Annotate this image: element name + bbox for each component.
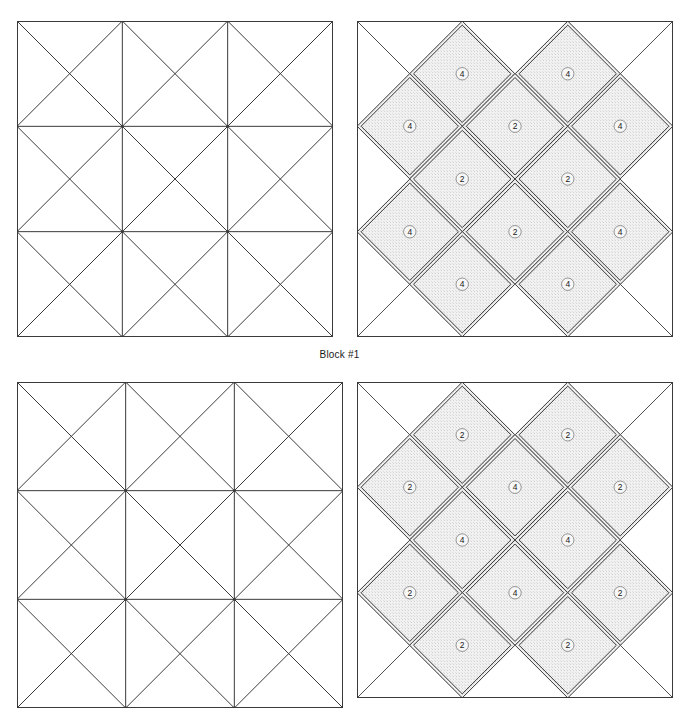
svg-text:4: 4 xyxy=(618,121,623,131)
svg-text:4: 4 xyxy=(460,535,465,545)
block-2-piecing-grid xyxy=(17,382,343,708)
svg-text:4: 4 xyxy=(565,69,570,79)
svg-text:2: 2 xyxy=(460,430,465,440)
svg-text:2: 2 xyxy=(460,174,465,184)
svg-text:4: 4 xyxy=(513,482,518,492)
svg-text:2: 2 xyxy=(618,482,623,492)
svg-text:2: 2 xyxy=(565,430,570,440)
svg-text:2: 2 xyxy=(407,482,412,492)
svg-text:2: 2 xyxy=(460,640,465,650)
svg-text:2: 2 xyxy=(565,640,570,650)
block-1-piecing-grid xyxy=(17,21,333,337)
svg-text:4: 4 xyxy=(407,121,412,131)
svg-text:4: 4 xyxy=(565,279,570,289)
svg-text:2: 2 xyxy=(407,588,412,598)
block-2-piece-layout: 222424424222 xyxy=(357,382,673,698)
svg-text:4: 4 xyxy=(513,588,518,598)
svg-text:4: 4 xyxy=(618,227,623,237)
diagram-sheet: 444242242444 Block #1 222424424222 xyxy=(0,0,679,721)
block-1-piece-layout: 444242242444 xyxy=(357,21,673,337)
svg-text:4: 4 xyxy=(460,69,465,79)
svg-text:4: 4 xyxy=(407,227,412,237)
svg-text:4: 4 xyxy=(460,279,465,289)
block-1-caption: Block #1 xyxy=(0,349,679,360)
svg-text:2: 2 xyxy=(513,227,518,237)
svg-text:2: 2 xyxy=(618,588,623,598)
svg-text:2: 2 xyxy=(565,174,570,184)
svg-text:2: 2 xyxy=(513,121,518,131)
svg-text:4: 4 xyxy=(565,535,570,545)
